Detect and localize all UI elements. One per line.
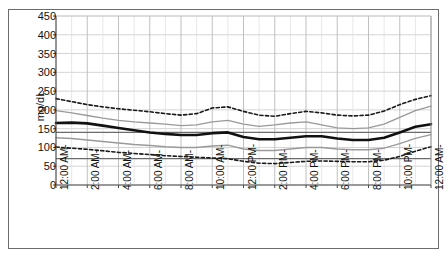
x-tick-label: 4:00 AM- <box>123 150 133 190</box>
x-tick-label: 12:00 AM- <box>435 144 445 190</box>
x-tick-label: 10:00 PM- <box>404 144 414 190</box>
x-tick-label: 2:00 AM- <box>91 150 101 190</box>
x-axis-tick-labels: 12:00 AM-2:00 AM-4:00 AM-6:00 AM-8:00 AM… <box>0 0 448 258</box>
x-tick-label: 12:00 AM- <box>60 144 70 190</box>
x-tick-label: 12:00 PM- <box>248 144 258 190</box>
glucose-profile-chart-screenshot: 050100150200250300350400450 12:00 AM-2:0… <box>0 0 448 258</box>
x-tick-label: 8:00 AM- <box>185 150 195 190</box>
x-tick-label: 2:00 PM- <box>279 149 289 190</box>
x-tick-label: 6:00 PM- <box>341 149 351 190</box>
y-axis-title: mg/dL <box>34 76 54 136</box>
x-tick-label: 10:00 AM- <box>216 144 226 190</box>
x-tick-label: 8:00 PM- <box>373 149 383 190</box>
x-tick-label: 6:00 AM- <box>154 150 164 190</box>
x-tick-label: 4:00 PM- <box>310 149 320 190</box>
